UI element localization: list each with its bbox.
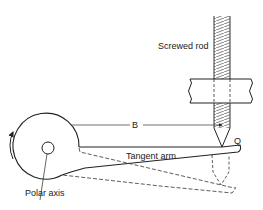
tangent-arm-label: Tangent arm	[126, 151, 176, 161]
nut-block	[189, 79, 253, 103]
polar-axis-label: Polar axis	[25, 188, 65, 198]
tangent-arm-diagram: B Screwed rod Tangent arm Q Polar axis	[0, 0, 263, 210]
point-q-label: Q	[234, 136, 241, 146]
tangent-arm	[13, 113, 241, 179]
screwed-rod	[214, 16, 230, 79]
screwed-rod-label: Screwed rod	[158, 41, 209, 51]
distance-label: B	[132, 120, 138, 130]
